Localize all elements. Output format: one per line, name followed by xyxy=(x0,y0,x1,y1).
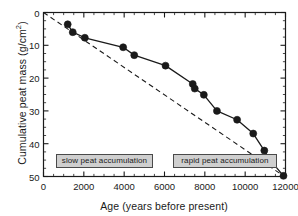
x-tick-label: 4000 xyxy=(114,181,135,192)
x-tick-label: 2000 xyxy=(73,181,94,192)
y-axis-label: Cumulative peat mass (g/cm2) xyxy=(14,21,28,165)
linear-trend-dashed-line xyxy=(44,13,284,176)
y-axis-label-exponent: 2 xyxy=(14,25,23,29)
x-tick-label: 8000 xyxy=(194,181,215,192)
annotation-slow-peat-accumulation: slow peat accumulation xyxy=(56,154,154,168)
x-tick-label: 10000 xyxy=(232,181,258,192)
y-tick-label: 10 xyxy=(29,40,40,51)
x-tick-label: 12000 xyxy=(272,181,298,192)
y-tick-label: 40 xyxy=(29,138,40,149)
y-tick-label: 30 xyxy=(29,105,40,116)
y-axis-label-container: Cumulative peat mass (g/cm2) xyxy=(11,7,29,179)
chart-figure: 01020304050 020004000600080001000012000 … xyxy=(0,0,298,216)
x-axis-label: Age (years before present) xyxy=(100,200,228,212)
y-tick-label: 20 xyxy=(29,73,40,84)
y-tick-label: 50 xyxy=(29,171,40,182)
y-tick-label: 0 xyxy=(34,7,39,18)
x-tick-label: 6000 xyxy=(154,181,175,192)
x-axis-label-container: Age (years before present) xyxy=(43,196,285,214)
x-tick-label: 0 xyxy=(41,181,46,192)
annotation-rapid-peat-accumulation: rapid peat accumulation xyxy=(173,154,278,168)
